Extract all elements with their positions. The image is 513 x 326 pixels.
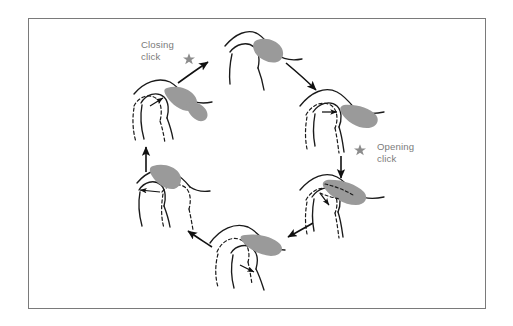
opening-click-label-group: Opening click <box>354 141 414 164</box>
arrow-top-to-upper-right <box>286 63 316 90</box>
condyle-neck-posterior <box>258 68 264 90</box>
condyle-neck-previous-dashed <box>306 117 308 149</box>
opening-click-line1: Opening <box>377 141 414 152</box>
condyle-neck-posterior <box>164 206 170 227</box>
stage-1-top <box>225 32 302 90</box>
condyle-neck-anterior <box>313 199 315 231</box>
condyle-neck-previous-dashed <box>133 108 136 142</box>
closing-click-line2: click <box>141 51 160 62</box>
star-icon <box>183 53 195 64</box>
articular-disc <box>323 180 366 205</box>
condyle-neck-previous-dashed <box>306 202 308 234</box>
arrow-closing-to-top <box>178 62 208 83</box>
articular-disc <box>253 39 283 63</box>
condyle-neck-previous-dashed-2 <box>248 262 252 284</box>
stage-5-lower-left <box>137 165 210 230</box>
condyle-neck-previous-dashed <box>162 194 164 228</box>
condyle-neck-posterior <box>256 269 264 290</box>
condyle-neck-posterior <box>167 118 173 139</box>
arrow-lower-right-to-bottom <box>288 223 313 237</box>
condyle-neck-previous-dashed <box>216 254 218 287</box>
condyle-neck-posterior <box>339 127 344 152</box>
figure-root: Opening click <box>0 0 513 326</box>
condyle-outline-previous-dashed <box>134 96 161 121</box>
internal-translation-arrow <box>320 193 329 205</box>
star-icon <box>354 144 366 155</box>
closing-click-label-group: Closing click <box>141 39 195 64</box>
condyle-neck-anterior <box>232 255 234 288</box>
condyle-neck-previous-dashed-2 <box>335 213 339 238</box>
stage-2-upper-right <box>300 90 384 153</box>
articular-disc-lobe <box>187 102 208 121</box>
condyle-neck-previous-dashed-2 <box>189 209 193 230</box>
stage-3-lower-right <box>300 175 384 238</box>
tmj-cycle-diagram: Opening click <box>0 0 513 326</box>
articular-disc <box>241 234 282 256</box>
articular-disc <box>340 105 378 128</box>
posterior-slope <box>190 187 210 191</box>
internal-translation-arrow <box>150 98 163 106</box>
stage-4-bottom <box>210 225 285 290</box>
condyle-neck-anterior <box>141 105 144 139</box>
condyle-outline-previous-dashed <box>162 185 190 209</box>
condyle-outline-previous-dashed <box>306 103 337 128</box>
stage-6-upper-left <box>133 80 212 143</box>
closing-click-line1: Closing <box>141 39 174 50</box>
opening-click-line2: click <box>377 153 396 164</box>
condyle-neck-previous-dashed-2 <box>160 121 165 143</box>
condyle-neck-previous-dashed-2 <box>335 128 339 153</box>
condyle-neck-anterior <box>230 54 232 84</box>
internal-translation-arrow <box>240 265 254 272</box>
condyle-neck-anterior <box>314 114 316 146</box>
articular-disc <box>150 165 181 189</box>
arrow-bottom-to-lower-left <box>188 231 212 247</box>
condyle-neck-anterior <box>139 192 142 226</box>
internal-translation-arrow <box>140 190 160 192</box>
